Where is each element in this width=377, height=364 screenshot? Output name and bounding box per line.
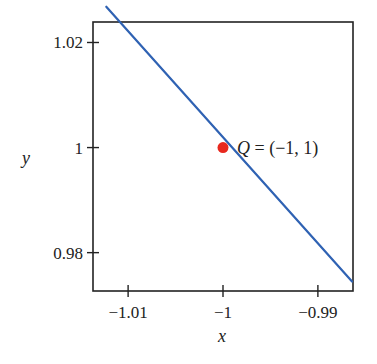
y-tick-label: 1 (75, 139, 84, 158)
point-q-letter: Q (237, 138, 250, 158)
point-q-label: Q = (−1, 1) (237, 138, 318, 159)
chart: −1.01−1−0.99 0.9811.02 Q = (−1, 1) x y (0, 0, 377, 364)
x-axis-label: x (217, 326, 226, 346)
point-q-coords: = (−1, 1) (250, 138, 318, 159)
point-q-marker (218, 142, 229, 153)
y-tick-label: 1.02 (53, 33, 83, 52)
y-axis-ticks: 0.9811.02 (53, 33, 99, 262)
y-tick-label: 0.98 (53, 244, 83, 263)
x-tick-label: −1.01 (108, 303, 147, 322)
x-tick-label: −1 (214, 303, 232, 322)
x-tick-label: −0.99 (298, 303, 337, 322)
y-axis-label: y (20, 148, 30, 168)
